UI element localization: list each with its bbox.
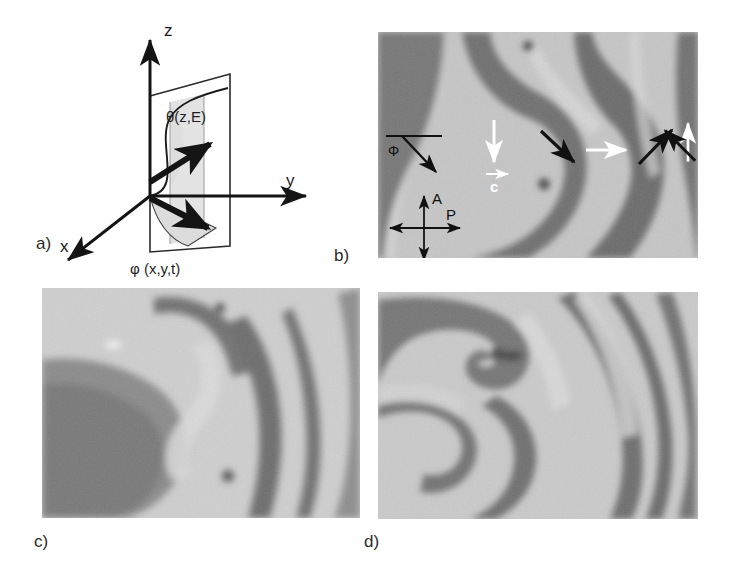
panel-label-b: b) [334, 246, 349, 266]
arrow-white-right [584, 140, 638, 160]
arrow-black-down-right [538, 128, 584, 172]
axis-label-y: y [286, 171, 295, 190]
panel-b-micrograph: Φ A P [378, 32, 698, 258]
arrow-black-up-left [656, 126, 698, 166]
axis-label-x: x [60, 237, 69, 256]
arrow-white-down [482, 118, 506, 170]
panel-c-micrograph [42, 288, 360, 518]
polarizer-label: P [446, 206, 456, 223]
c-vector-text: c [490, 178, 498, 195]
axis-label-z: z [164, 21, 173, 40]
tilt-angle-label: θ(z,E) [166, 108, 206, 125]
phi-angle-indicator: Φ [384, 128, 462, 184]
azimuth-angle-label: φ (x,y,t) [130, 260, 180, 277]
analyzer-label: A [432, 190, 442, 207]
panel-d-micrograph [378, 292, 698, 519]
c-vector-label: c [482, 168, 516, 182]
figure-root: z y x θ(z,E) φ (x,y,t) a) [0, 0, 736, 585]
panel-label-a: a) [36, 234, 51, 254]
panel-a-schematic: z y x θ(z,E) φ (x,y,t) [38, 14, 338, 286]
panel-label-c: c) [34, 532, 48, 552]
polarizer-analyzer-cross: A P [386, 188, 472, 258]
x-axis-line [68, 196, 150, 260]
panel-label-d: d) [364, 532, 379, 552]
svg-text:Φ: Φ [388, 143, 399, 159]
